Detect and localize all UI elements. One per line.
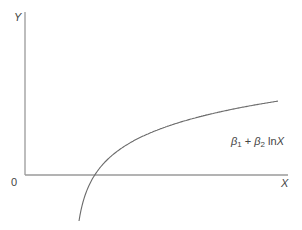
x-variable: X	[277, 135, 284, 147]
origin-label: 0	[11, 177, 17, 188]
y-axis-label: Y	[14, 12, 21, 23]
x-axis-label: X	[281, 178, 288, 189]
log-curve	[79, 101, 278, 221]
curve-equation-label: β1 + β2 lnX	[231, 136, 284, 149]
chart-canvas	[0, 0, 302, 230]
ln-operator: ln	[265, 135, 277, 147]
plus-sign: +	[242, 135, 255, 147]
